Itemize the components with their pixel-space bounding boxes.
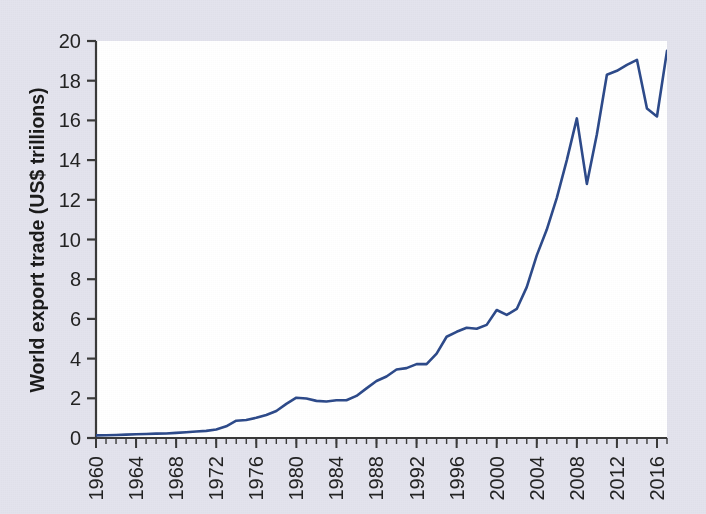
x-tick-label-1976: 1976: [245, 456, 267, 501]
y-tick-label-14: 14: [59, 149, 81, 171]
x-axis-tick-labels: 1960196419681972197619801984198819921996…: [85, 456, 668, 501]
x-tick-label-1992: 1992: [406, 456, 428, 501]
x-tick-label-1960: 1960: [85, 456, 107, 501]
x-tick-label-2000: 2000: [486, 456, 508, 501]
x-tick-label-1972: 1972: [205, 456, 227, 501]
x-tick-label-1984: 1984: [325, 456, 347, 501]
y-tick-label-8: 8: [70, 268, 81, 290]
y-tick-label-18: 18: [59, 70, 81, 92]
y-tick-label-0: 0: [70, 427, 81, 449]
line-chart: World export trade (US$ trillions) 02468…: [0, 0, 706, 514]
x-tick-label-1980: 1980: [285, 456, 307, 501]
x-tick-label-2004: 2004: [526, 456, 548, 501]
y-tick-label-12: 12: [59, 189, 81, 211]
y-tick-label-2: 2: [70, 387, 81, 409]
x-tick-label-2008: 2008: [566, 456, 588, 501]
y-tick-label-20: 20: [59, 30, 81, 52]
x-tick-label-2012: 2012: [606, 456, 628, 501]
y-tick-label-4: 4: [70, 348, 81, 370]
x-tick-label-1968: 1968: [165, 456, 187, 501]
x-tick-label-2016: 2016: [646, 456, 668, 501]
y-tick-label-6: 6: [70, 308, 81, 330]
y-axis-label: World export trade (US$ trillions): [26, 87, 48, 392]
x-tick-label-1988: 1988: [365, 456, 387, 501]
y-tick-label-16: 16: [59, 109, 81, 131]
x-tick-label-1996: 1996: [446, 456, 468, 501]
chart-figure: World export trade (US$ trillions) 02468…: [0, 0, 706, 514]
x-tick-label-1964: 1964: [125, 456, 147, 501]
y-tick-label-10: 10: [59, 229, 81, 251]
